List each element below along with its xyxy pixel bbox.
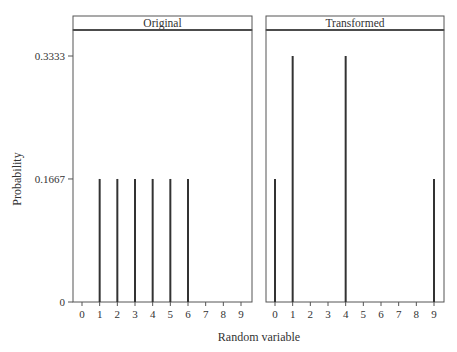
x-tick-label: 1 [97,308,103,320]
x-tick-label: 2 [115,308,121,320]
x-tick-label: 6 [378,308,384,320]
x-tick-label: 9 [238,308,244,320]
x-tick-label: 3 [325,308,331,320]
panel-title: Transformed [326,17,385,29]
y-tick-label: 0.1667 [35,173,66,185]
x-tick-label: 4 [343,308,349,320]
x-tick-label: 6 [185,308,191,320]
x-tick-label: 5 [168,308,174,320]
x-tick-label: 8 [221,308,227,320]
y-axis-label-group: Probability [10,152,24,205]
y-tick-label: 0.3333 [35,50,66,62]
x-tick-label: 2 [308,308,314,320]
panels: Original012345678900.16670.3333Transform… [35,16,444,320]
x-tick-label: 5 [361,308,367,320]
x-tick-label: 3 [132,308,138,320]
panel-title: Original [143,17,181,30]
x-tick-label: 0 [272,308,278,320]
x-tick-label: 8 [414,308,420,320]
chart: Probability Random variable Original0123… [0,0,457,352]
x-tick-label: 4 [150,308,156,320]
panel-transformed: Transformed0123456789 [266,16,444,320]
y-axis-label: Probability [10,152,24,205]
y-tick-label: 0 [60,296,66,308]
x-tick-label: 7 [396,308,402,320]
x-axis-label: Random variable [218,330,300,344]
panel-original: Original012345678900.16670.3333 [35,16,252,320]
x-tick-label: 1 [290,308,296,320]
x-tick-label: 0 [79,308,85,320]
x-tick-label: 9 [431,308,437,320]
x-tick-label: 7 [203,308,209,320]
